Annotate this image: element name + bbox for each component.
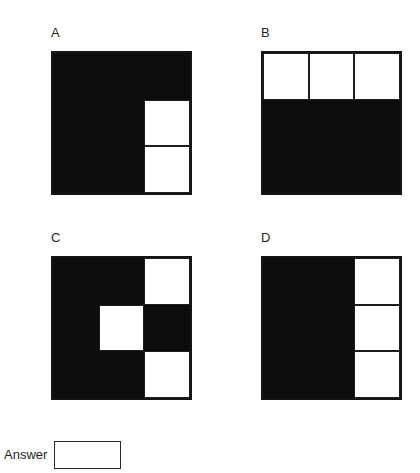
grid-cell-black	[53, 100, 99, 147]
grid-cell-black	[99, 351, 145, 398]
grid-cell-black	[144, 305, 190, 352]
grid-cell-black	[53, 258, 99, 305]
option-c-label: C	[51, 231, 60, 244]
grid-cell-black	[263, 258, 309, 305]
grid-cell-white	[354, 351, 400, 398]
grid-cell-white	[309, 53, 355, 100]
grid-cell-white	[144, 146, 190, 193]
grid-cell-black	[99, 100, 145, 147]
grid-cell-white	[263, 53, 309, 100]
grid-cell-black	[144, 53, 190, 100]
grid-cell-white	[144, 258, 190, 305]
option-b-label: B	[261, 26, 270, 39]
grid-cell-black	[354, 146, 400, 193]
grid-cell-black	[309, 100, 355, 147]
grid-cell-black	[263, 351, 309, 398]
grid-cell-black	[309, 258, 355, 305]
grid-cell-white	[144, 351, 190, 398]
option-d-label: D	[261, 231, 270, 244]
option-a-label: A	[51, 26, 60, 39]
grid-cell-black	[309, 146, 355, 193]
grid-cell-black	[53, 53, 99, 100]
grid-cell-black	[309, 305, 355, 352]
grid-cell-white	[144, 100, 190, 147]
grid-cell-black	[263, 100, 309, 147]
grid-cell-black	[53, 146, 99, 193]
grid-cell-white	[354, 305, 400, 352]
answer-input-box[interactable]	[54, 441, 121, 469]
grid-cell-black	[99, 53, 145, 100]
option-b-grid	[261, 51, 402, 195]
grid-cell-black	[354, 100, 400, 147]
option-a-grid	[51, 51, 192, 195]
grid-cell-black	[309, 351, 355, 398]
grid-cell-white	[99, 305, 145, 352]
grid-cell-black	[263, 305, 309, 352]
grid-cell-black	[99, 146, 145, 193]
answer-label: Answer	[4, 448, 47, 462]
grid-cell-black	[53, 351, 99, 398]
grid-cell-white	[354, 258, 400, 305]
option-c-grid	[51, 256, 192, 400]
grid-cell-black	[263, 146, 309, 193]
option-d-grid	[261, 256, 402, 400]
grid-cell-black	[53, 305, 99, 352]
grid-cell-white	[354, 53, 400, 100]
grid-cell-black	[99, 258, 145, 305]
